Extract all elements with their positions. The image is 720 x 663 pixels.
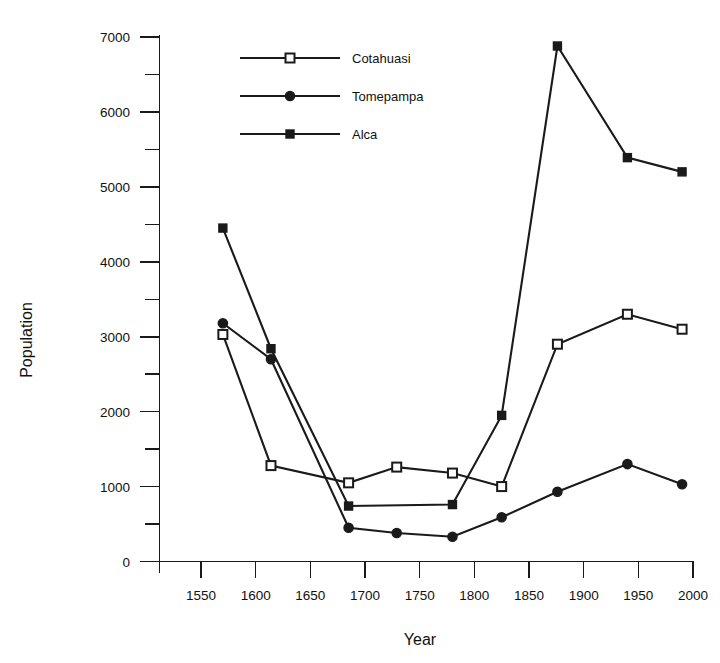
datapoint-cotahuasi-1729 [392,463,401,472]
datapoint-alca-1990 [678,168,686,176]
y-tick-label-4000: 4000 [100,255,130,270]
x-tick-label-1600: 1600 [241,588,271,603]
x-tick-label-1650: 1650 [295,588,325,603]
legend-label-cotahuasi: Cotahuasi [352,51,411,66]
x-tick-label-1900: 1900 [569,588,599,603]
datapoint-tomepampa-1825 [497,513,506,522]
x-tick-label-1800: 1800 [459,588,489,603]
legend-marker-cotahuasi [286,54,295,63]
datapoint-alca-1614 [267,345,275,353]
datapoint-tomepampa-1876 [553,487,562,496]
legend-label-alca: Alca [352,127,378,142]
datapoint-alca-1685 [345,502,353,510]
datapoint-cotahuasi-1780 [448,469,457,478]
datapoint-cotahuasi-1876 [553,340,562,349]
y-tick-label-5000: 5000 [100,180,130,195]
x-tick-label-1950: 1950 [623,588,653,603]
datapoint-tomepampa-1729 [392,528,401,537]
datapoint-tomepampa-1990 [677,480,686,489]
y-tick-label-1000: 1000 [100,480,130,495]
x-tick-label-1550: 1550 [186,588,216,603]
legend-marker-alca [286,130,294,138]
datapoint-alca-1940 [623,154,631,162]
datapoint-cotahuasi-1685 [344,478,353,487]
datapoint-tomepampa-1940 [623,459,632,468]
datapoint-cotahuasi-1614 [266,461,275,470]
datapoint-cotahuasi-1570 [218,330,227,339]
datapoint-alca-1780 [448,501,456,509]
population-line-chart: 01000200030004000500060007000 Population… [0,0,720,663]
y-axis-title: Population [18,302,35,378]
datapoint-alca-1825 [498,411,506,419]
y-tick-label-6000: 6000 [100,105,130,120]
x-axis-title: Year [404,631,437,648]
datapoint-tomepampa-1685 [344,523,353,532]
datapoint-alca-1570 [219,224,227,232]
datapoint-tomepampa-1780 [448,532,457,541]
chart-canvas: 01000200030004000500060007000 Population… [0,0,720,663]
x-tick-label-1750: 1750 [405,588,435,603]
y-tick-label-2000: 2000 [100,405,130,420]
y-tick-label-0: 0 [122,555,130,570]
legend-marker-tomepampa [285,91,294,100]
y-tick-label-7000: 7000 [100,30,130,45]
legend-label-tomepampa: Tomepampa [352,89,424,104]
datapoint-cotahuasi-1825 [497,482,506,491]
y-tick-label-3000: 3000 [100,330,130,345]
datapoint-cotahuasi-1940 [623,310,632,319]
x-tick-label-1700: 1700 [350,588,380,603]
x-tick-label-2000: 2000 [678,588,708,603]
datapoint-alca-1876 [553,42,561,50]
datapoint-tomepampa-1570 [218,319,227,328]
datapoint-cotahuasi-1990 [678,325,687,334]
x-tick-label-1850: 1850 [514,588,544,603]
